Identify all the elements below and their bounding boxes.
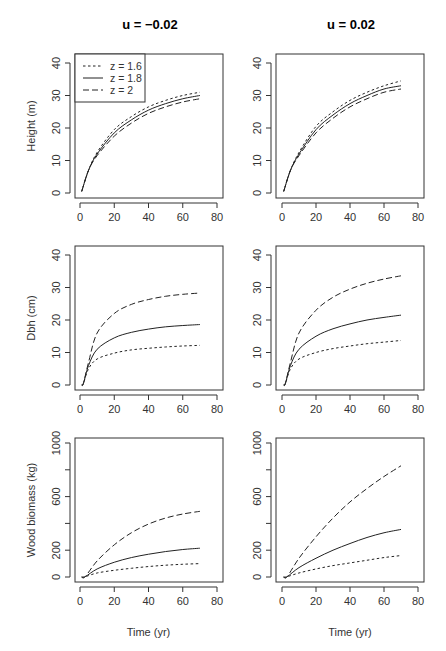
y-tick-label: 1000 (50, 431, 62, 455)
legend-label: z = 1.8 (110, 72, 142, 84)
y-tick-label: 40 (251, 57, 263, 69)
y-tick-label: 30 (50, 281, 62, 293)
x-axis-label: Time (yr) (127, 626, 171, 638)
y-tick-label: 40 (251, 249, 263, 261)
x-tick-label: 40 (344, 403, 356, 415)
plot-frame (276, 246, 424, 390)
series-line-z-1-6 (82, 564, 200, 578)
plot-frame (276, 438, 424, 582)
x-tick-label: 80 (412, 595, 424, 607)
series-line-z-1-8 (284, 529, 401, 577)
x-tick-label: 0 (77, 403, 83, 415)
x-tick-label: 0 (279, 595, 285, 607)
y-tick-label: 0 (251, 574, 263, 580)
y-axis-label: Wood biomass (kg) (25, 463, 37, 558)
y-tick-label: 600 (50, 487, 62, 505)
panel-3-2: 02040608002006001000Time (yr) (251, 431, 424, 638)
series-line-z-1-6 (82, 92, 200, 191)
series-line-z-1-8 (82, 548, 200, 577)
x-tick-label: 80 (211, 211, 223, 223)
x-tick-label: 80 (412, 403, 424, 415)
y-tick-label: 10 (251, 346, 263, 358)
y-tick-label: 20 (251, 122, 263, 134)
x-tick-label: 80 (412, 211, 424, 223)
column-title-right: u = 0.02 (327, 17, 375, 32)
series-line-z-1-8 (284, 315, 401, 385)
y-tick-label: 0 (50, 382, 62, 388)
series-line-z-2 (284, 276, 401, 386)
x-tick-label: 20 (310, 211, 322, 223)
y-tick-label: 0 (251, 190, 263, 196)
plot-frame (276, 54, 424, 198)
x-tick-label: 60 (378, 595, 390, 607)
y-tick-label: 10 (50, 154, 62, 166)
x-tick-label: 40 (142, 403, 154, 415)
y-tick-label: 20 (50, 122, 62, 134)
x-tick-label: 20 (108, 595, 120, 607)
y-tick-label: 0 (251, 382, 263, 388)
x-tick-label: 20 (108, 403, 120, 415)
y-axis-label: Dbh (cm) (25, 295, 37, 340)
y-tick-label: 10 (50, 346, 62, 358)
y-tick-label: 600 (251, 487, 263, 505)
x-tick-label: 40 (142, 595, 154, 607)
x-tick-label: 80 (211, 595, 223, 607)
x-tick-label: 0 (279, 403, 285, 415)
x-tick-label: 20 (310, 403, 322, 415)
series-line-z-2 (82, 293, 200, 385)
x-tick-label: 60 (177, 595, 189, 607)
y-axis-label: Height (m) (25, 100, 37, 151)
panel-3-1: 02040608002006001000Wood biomass (kg)Tim… (25, 431, 223, 638)
legend-label: z = 2 (110, 84, 133, 96)
x-tick-label: 40 (344, 211, 356, 223)
x-tick-label: 0 (77, 211, 83, 223)
series-line-z-1-6 (82, 345, 200, 385)
x-tick-label: 60 (378, 403, 390, 415)
legend-label: z = 1.6 (110, 60, 142, 72)
series-line-z-1-8 (284, 86, 401, 192)
series-line-z-2 (284, 466, 401, 578)
x-tick-label: 0 (279, 211, 285, 223)
series-line-z-2 (284, 89, 401, 191)
x-tick-label: 20 (310, 595, 322, 607)
x-tick-label: 60 (378, 211, 390, 223)
y-tick-label: 20 (251, 314, 263, 326)
x-tick-label: 40 (142, 211, 154, 223)
panel-2-1: 020406080010203040Dbh (cm) (25, 246, 223, 415)
series-line-z-1-8 (82, 96, 200, 192)
column-title-left: u = −0.02 (122, 17, 178, 32)
y-tick-label: 30 (251, 281, 263, 293)
x-axis-label: Time (yr) (328, 626, 372, 638)
series-line-z-1-6 (284, 81, 401, 192)
x-tick-label: 20 (108, 211, 120, 223)
figure-canvas: u = −0.02 u = 0.02 020406080010203040Hei… (0, 0, 446, 651)
plot-frame (75, 246, 223, 390)
x-tick-label: 0 (77, 595, 83, 607)
y-tick-label: 30 (251, 89, 263, 101)
x-tick-label: 80 (211, 403, 223, 415)
y-tick-label: 20 (50, 314, 62, 326)
y-tick-label: 40 (50, 57, 62, 69)
y-tick-label: 40 (50, 249, 62, 261)
x-tick-label: 40 (344, 595, 356, 607)
y-tick-label: 1000 (251, 431, 263, 455)
series-line-z-1-8 (82, 325, 200, 386)
series-line-z-2 (82, 99, 200, 192)
panel-2-2: 020406080010203040 (251, 246, 424, 415)
x-tick-label: 60 (177, 211, 189, 223)
y-tick-label: 0 (50, 574, 62, 580)
y-tick-label: 200 (50, 541, 62, 559)
y-tick-label: 30 (50, 89, 62, 101)
y-tick-label: 200 (251, 541, 263, 559)
plot-frame (75, 438, 223, 582)
x-tick-label: 60 (177, 403, 189, 415)
panel-1-2: 020406080010203040 (251, 54, 424, 223)
y-tick-label: 0 (50, 190, 62, 196)
legend: z = 1.6z = 1.8z = 2 (75, 54, 145, 102)
y-tick-label: 10 (251, 154, 263, 166)
